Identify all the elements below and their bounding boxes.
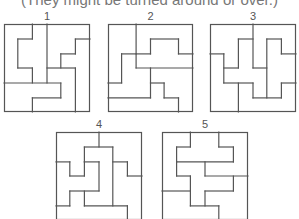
puzzle-option-1[interactable] bbox=[4, 24, 90, 112]
option-number-label: 5 bbox=[195, 118, 215, 130]
puzzle-grid-diagram bbox=[108, 24, 193, 112]
puzzle-option-3[interactable] bbox=[210, 24, 296, 112]
option-number-label: 4 bbox=[89, 118, 109, 130]
puzzle-grid-diagram bbox=[162, 132, 248, 219]
puzzle-option-4[interactable] bbox=[56, 132, 142, 219]
puzzle-grid-diagram bbox=[210, 24, 296, 112]
option-number-label: 3 bbox=[243, 10, 263, 22]
puzzle-option-5[interactable] bbox=[162, 132, 248, 219]
option-number-label: 1 bbox=[37, 10, 57, 22]
puzzle-option-2[interactable] bbox=[108, 24, 193, 112]
option-number-label: 2 bbox=[141, 10, 161, 22]
puzzle-grid-diagram bbox=[56, 132, 142, 219]
puzzle-grid-diagram bbox=[4, 24, 90, 112]
instruction-caption: (They might be turned around or over.) bbox=[0, 0, 299, 8]
